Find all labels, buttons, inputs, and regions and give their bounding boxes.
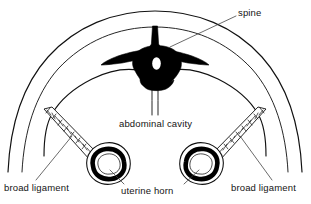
anatomical-diagram: spine abdominal cavity broad ligament ut… — [0, 0, 311, 204]
diagram-canvas — [0, 0, 311, 204]
label-uterine-horn: uterine horn — [121, 186, 174, 196]
label-abdominal-cavity: abdominal cavity — [119, 119, 192, 129]
leader-spine — [170, 16, 236, 47]
uterine-horn-left — [87, 143, 131, 185]
leader-broad-ligament-left — [36, 136, 72, 180]
leader-broad-ligament-right — [240, 136, 272, 180]
spinal-canal — [152, 57, 161, 69]
label-broad-ligament-left: broad ligament — [4, 183, 69, 193]
vertebra-silhouette — [101, 26, 209, 91]
broad-ligament-left — [44, 107, 97, 160]
broad-ligament-right — [213, 107, 266, 160]
uterine-horn-right — [180, 143, 224, 185]
label-broad-ligament-right: broad ligament — [231, 183, 296, 193]
label-spine: spine — [238, 8, 261, 18]
